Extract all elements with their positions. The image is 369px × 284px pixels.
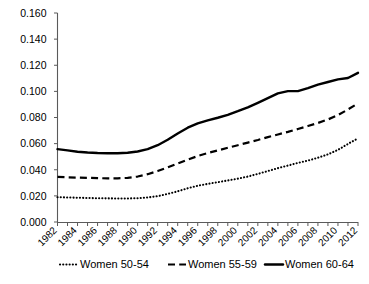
x-axis-tick-labels: 1982198419861988199019921994199619982000…: [35, 224, 359, 248]
x-tick-label: 1992: [136, 224, 160, 248]
y-tick-label: 0.140: [20, 33, 46, 45]
series-line-women-55-59: [58, 103, 359, 178]
y-tick-label: 0.080: [20, 111, 46, 123]
x-tick-label: 2004: [256, 224, 280, 248]
chart-canvas: 0.0000.0200.0400.0600.0800.1000.1200.140…: [0, 0, 369, 284]
x-tick-label: 2010: [316, 224, 340, 248]
y-tick-label: 0.040: [20, 164, 46, 176]
series-line-women-60-64: [58, 73, 359, 153]
x-tick-label: 2002: [236, 224, 260, 248]
legend-label: Women 50-54: [80, 258, 149, 270]
chart-legend: Women 50-54Women 55-59Women 60-64: [60, 258, 354, 270]
x-tick-label: 1986: [75, 224, 99, 248]
x-tick-label: 1998: [196, 224, 220, 248]
y-axis-tick-labels: 0.0000.0200.0400.0600.0800.1000.1200.140…: [20, 7, 46, 228]
x-tick-label: 2000: [216, 224, 240, 248]
series-line-women-50-54: [58, 138, 359, 198]
series-layer: [58, 73, 359, 199]
x-tick-label: 2006: [276, 224, 300, 248]
y-tick-label: 0.000: [20, 216, 46, 228]
y-tick-label: 0.160: [20, 7, 46, 19]
x-tick-label: 1996: [176, 224, 200, 248]
x-tick-label: 1984: [55, 224, 79, 248]
legend-label: Women 60-64: [285, 258, 354, 270]
line-chart: 0.0000.0200.0400.0600.0800.1000.1200.140…: [0, 0, 369, 284]
y-tick-label: 0.100: [20, 85, 46, 97]
y-tick-label: 0.060: [20, 137, 46, 149]
x-tick-label: 1982: [35, 224, 59, 248]
x-tick-label: 2012: [336, 224, 360, 248]
y-tick-label: 0.120: [20, 59, 46, 71]
x-tick-label: 1994: [156, 224, 180, 248]
x-tick-label: 1990: [116, 224, 140, 248]
x-tick-label: 2008: [296, 224, 320, 248]
x-tick-label: 1988: [96, 224, 120, 248]
legend-label: Women 55-59: [188, 258, 257, 270]
y-tick-label: 0.020: [20, 190, 46, 202]
